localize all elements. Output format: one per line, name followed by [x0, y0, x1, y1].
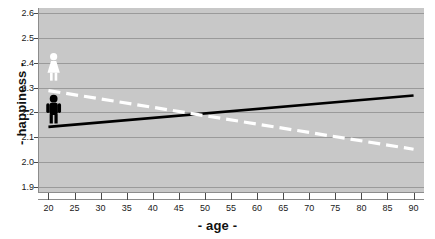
x-tick-label: 30 — [88, 203, 114, 213]
x-tick-label: 75 — [322, 203, 348, 213]
happiness-by-age-chart: 1.92.02.12.22.32.42.52.6 202530354045505… — [0, 0, 435, 239]
x-tick-label: 80 — [348, 203, 374, 213]
x-tick-label: 45 — [166, 203, 192, 213]
y-axis-title: - happiness - — [14, 39, 29, 169]
x-tick-label: 20 — [35, 203, 61, 213]
x-tick-labels: 202530354045505560657075808590 — [0, 0, 435, 239]
x-tick-label: 25 — [62, 203, 88, 213]
x-tick-label: 70 — [296, 203, 322, 213]
x-tick-label: 40 — [140, 203, 166, 213]
x-tick-label: 85 — [374, 203, 400, 213]
x-tick-label: 90 — [401, 203, 427, 213]
x-tick-label: 65 — [270, 203, 296, 213]
x-tick-label: 60 — [244, 203, 270, 213]
x-tick-label: 50 — [192, 203, 218, 213]
x-axis-title: - age - — [0, 218, 435, 233]
x-tick-label: 35 — [114, 203, 140, 213]
x-tick-label: 55 — [218, 203, 244, 213]
